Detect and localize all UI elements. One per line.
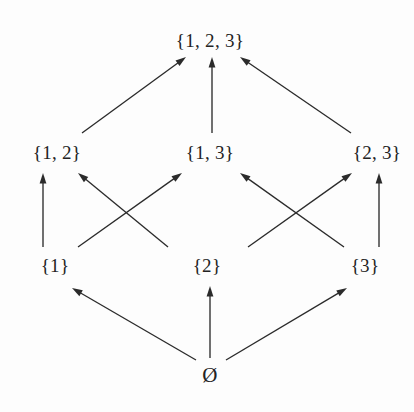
node-s13: {1, 3} [186,143,235,162]
edge-s3-to-s23 [376,173,383,247]
node-s1: {1} [41,256,70,275]
edge-empty-to-s2 [207,286,214,358]
arrowhead-icon [40,173,47,184]
arrowhead-icon [207,286,214,297]
arrowhead-icon [72,288,83,296]
arrowhead-icon [336,288,347,296]
node-empty: Ø [202,365,217,386]
node-full: {1, 2, 3} [176,31,244,50]
node-s12: {1, 2} [33,143,82,162]
edge-line [82,62,180,133]
edge-s1-to-s12 [40,173,47,247]
edge-empty-to-s3 [226,288,347,360]
node-s2: {2} [193,256,222,275]
arrowhead-icon [171,173,182,182]
arrowhead-icon [209,57,216,68]
node-s23: {2, 3} [353,143,402,162]
edge-s12-to-full [82,57,186,133]
edge-s2-to-s23 [248,173,352,247]
arrowhead-icon [240,57,251,66]
edge-line [248,178,345,247]
edge-line [79,292,196,360]
edge-line [247,178,344,247]
edge-layer [0,0,414,412]
edge-s13-to-full [209,57,216,133]
hasse-diagram: {1, 2, 3}{1, 2}{1, 3}{2, 3}{1}{2}{3}Ø [0,0,414,412]
edge-s23-to-full [240,57,351,133]
edge-s3-to-s13 [240,173,344,247]
edge-empty-to-s1 [72,288,196,360]
edge-s2-to-s12 [78,173,168,247]
edge-line [226,292,340,360]
node-s3: {3} [351,256,380,275]
arrowhead-icon [341,173,352,182]
edge-s1-to-s13 [78,173,182,247]
edge-line [247,62,351,133]
arrowhead-icon [176,57,186,66]
edge-line [78,178,175,247]
arrowhead-icon [376,173,383,184]
arrowhead-icon [240,173,251,182]
